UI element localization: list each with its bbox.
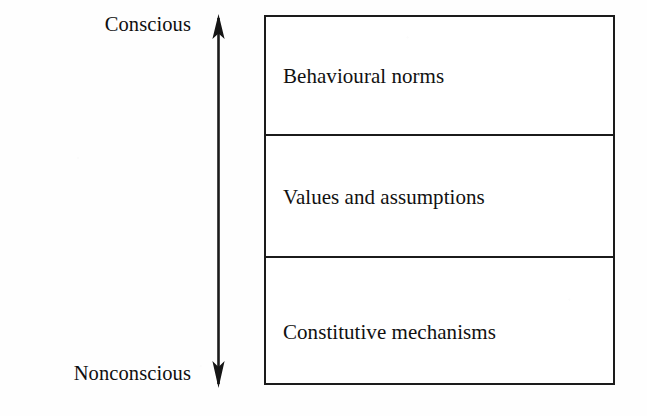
layer-constitutive-mechanisms: Constitutive mechanisms bbox=[266, 256, 613, 383]
layer-values-and-assumptions: Values and assumptions bbox=[266, 134, 613, 257]
layer-label-values-and-assumptions: Values and assumptions bbox=[266, 186, 485, 209]
layer-label-constitutive-mechanisms: Constitutive mechanisms bbox=[266, 321, 496, 344]
layer-behavioural-norms: Behavioural norms bbox=[266, 17, 613, 134]
continuum-arrow bbox=[206, 10, 232, 392]
diagram-canvas: Conscious Nonconscious Behavioural norms… bbox=[0, 0, 647, 416]
axis-label-conscious: Conscious bbox=[0, 14, 191, 35]
axis-label-nonconscious: Nonconscious bbox=[0, 363, 191, 384]
layer-label-behavioural-norms: Behavioural norms bbox=[266, 65, 444, 88]
layers-box: Behavioural norms Values and assumptions… bbox=[264, 15, 615, 385]
